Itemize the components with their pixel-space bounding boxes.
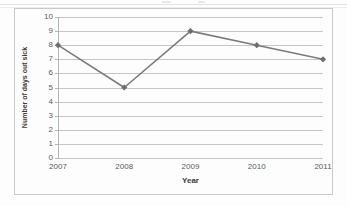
chart-screenshot: Number of days out sick 012345678910 200… (0, 0, 347, 206)
y-axis-tick-label: 1 (49, 140, 53, 148)
y-axis-title: Number of days out sick (19, 17, 30, 158)
x-axis-tick-label: 2007 (49, 163, 67, 171)
scan-artifact-smudge (162, 1, 171, 3)
data-point-marker (254, 42, 260, 48)
y-axis-tick-label: 4 (49, 98, 53, 106)
y-axis-tick-label: 8 (49, 41, 53, 49)
scan-artifact-smudge (198, 1, 205, 3)
x-axis-tick-label: 2009 (182, 163, 200, 171)
scan-artifact-line (0, 4, 347, 5)
y-axis-tick-label: 2 (49, 126, 53, 134)
y-axis-tick-label: 3 (49, 112, 53, 120)
y-axis-tick-label: 5 (49, 84, 53, 92)
x-axis-tick-label: 2008 (115, 163, 133, 171)
y-axis-tick (55, 158, 58, 159)
y-axis-tick-label: 7 (49, 55, 53, 63)
data-series-line (58, 17, 323, 158)
y-axis-tick-label: 6 (49, 69, 53, 77)
x-axis-tick-label: 2011 (314, 163, 331, 171)
chart-frame: Number of days out sick 012345678910 200… (14, 8, 333, 195)
data-point-marker (320, 56, 326, 62)
grid-line (58, 158, 323, 159)
y-axis-tick-label: 10 (44, 13, 53, 21)
x-axis-title: Year (58, 177, 323, 185)
plot-area: 012345678910 20072008200920102011 (58, 17, 323, 158)
y-axis-tick-label: 9 (49, 27, 53, 35)
x-axis-tick-label: 2010 (248, 163, 266, 171)
y-axis-tick-label: 0 (49, 154, 53, 162)
